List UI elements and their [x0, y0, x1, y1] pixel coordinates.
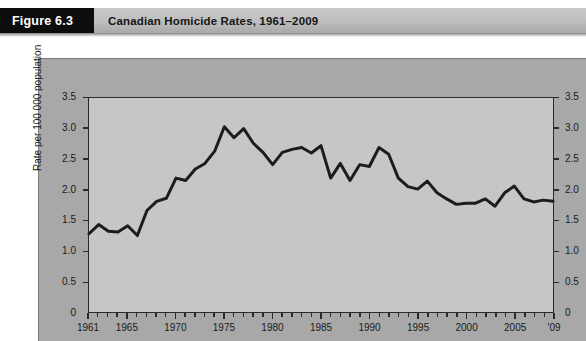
x-axis-tick-major: [87, 313, 89, 319]
x-axis-tick-minor: [524, 313, 526, 317]
y-axis-tick-left: [83, 189, 88, 191]
x-axis-tick-minor: [534, 313, 536, 317]
x-axis-tick-major: [466, 313, 468, 319]
y-axis-tick-label-left: 3.0: [39, 123, 76, 133]
x-axis-tick-minor: [476, 313, 478, 317]
x-axis-tick-minor: [301, 313, 303, 317]
y-axis-tick-label-left: 2.0: [39, 185, 76, 195]
x-axis-tick-label: 1975: [213, 323, 235, 333]
x-axis-tick-minor: [359, 313, 361, 317]
y-axis-tick-label-right: 2.0: [565, 185, 579, 195]
x-axis-tick-minor: [136, 313, 138, 317]
x-axis-tick-major: [272, 313, 274, 319]
x-axis-tick-minor: [398, 313, 400, 317]
x-axis-tick-label: 1985: [310, 323, 332, 333]
y-axis-tick-label-right: 0.5: [565, 277, 579, 287]
y-axis-tick-label-right: 0: [565, 308, 571, 318]
x-axis-tick-label: 2005: [504, 323, 526, 333]
x-axis-tick-major: [320, 313, 322, 319]
x-axis-tick-minor: [340, 313, 342, 317]
x-axis-tick-minor: [194, 313, 196, 317]
x-axis-tick-minor: [456, 313, 458, 317]
x-axis-tick-minor: [213, 313, 215, 317]
x-axis-tick-major: [514, 313, 516, 319]
x-axis-tick-minor: [349, 313, 351, 317]
x-axis-tick-minor: [281, 313, 283, 317]
x-axis-tick-major: [369, 313, 371, 319]
x-axis-tick-minor: [427, 313, 429, 317]
y-axis-tick-label-right: 1.5: [565, 215, 579, 225]
x-axis-tick-label: 1961: [77, 323, 99, 333]
figure-header: Figure 6.3 Canadian Homicide Rates, 1961…: [0, 8, 586, 33]
x-axis-tick-minor: [165, 313, 167, 317]
x-axis-tick-minor: [184, 313, 186, 317]
x-axis-tick-label: 1990: [358, 323, 380, 333]
x-axis-tick-minor: [544, 313, 546, 317]
y-axis-tick-right: [554, 282, 559, 284]
x-axis-tick-major: [126, 313, 128, 319]
x-axis-tick-minor: [379, 313, 381, 317]
x-axis-tick-minor: [388, 313, 390, 317]
x-axis-tick-minor: [107, 313, 109, 317]
y-axis-tick-label-right: 2.5: [565, 154, 579, 164]
x-axis-tick-minor: [243, 313, 245, 317]
y-axis-tick-label-right: 3.5: [565, 92, 579, 102]
x-axis-tick-minor: [233, 313, 235, 317]
figure-number-badge: Figure 6.3: [0, 8, 94, 33]
y-axis-tick-right: [554, 127, 559, 129]
y-axis-tick-label-left: 1.0: [39, 246, 76, 256]
x-axis-tick-minor: [330, 313, 332, 317]
y-axis-tick-right: [554, 158, 559, 160]
y-axis-tick-left: [83, 220, 88, 222]
x-axis-tick-minor: [262, 313, 264, 317]
y-axis-tick-right: [554, 251, 559, 253]
y-axis-tick-right: [554, 189, 559, 191]
x-axis-tick-major: [223, 313, 225, 319]
header-shadow-divider: [0, 33, 586, 37]
x-axis-tick-major: [175, 313, 177, 319]
y-axis-tick-left: [83, 127, 88, 129]
x-axis-tick-label: '09: [547, 323, 560, 333]
x-axis-tick-minor: [291, 313, 293, 317]
x-axis-tick-minor: [485, 313, 487, 317]
x-axis-tick-label: 1995: [407, 323, 429, 333]
y-axis-tick-left: [83, 251, 88, 253]
y-axis-tick-label-right: 1.0: [565, 246, 579, 256]
line-chart-svg: [89, 98, 553, 312]
x-axis-tick-minor: [155, 313, 157, 317]
y-axis-tick-left: [83, 97, 88, 99]
x-axis-tick-label: 2000: [456, 323, 478, 333]
x-axis-tick-minor: [204, 313, 206, 317]
x-axis-tick-major: [417, 313, 419, 319]
x-axis-tick-minor: [311, 313, 313, 317]
y-axis-tick-label-left: 0.5: [39, 277, 76, 287]
x-axis-tick-label: 1970: [164, 323, 186, 333]
y-axis-tick-right: [554, 97, 559, 99]
x-axis-tick-minor: [116, 313, 118, 317]
x-axis-tick-minor: [146, 313, 148, 317]
plot-area: [88, 97, 554, 313]
x-axis-tick-minor: [437, 313, 439, 317]
y-axis-tick-left: [83, 158, 88, 160]
x-axis-tick-minor: [252, 313, 254, 317]
y-axis-tick-label-left: 1.5: [39, 215, 76, 225]
x-axis-tick-label: 1965: [116, 323, 138, 333]
y-axis-tick-label-right: 3.0: [565, 123, 579, 133]
x-axis-tick-major: [553, 313, 555, 319]
y-axis-title: Rate per 100 000 population: [33, 45, 43, 171]
x-axis-tick-minor: [446, 313, 448, 317]
y-axis-tick-label-left: 0: [39, 308, 76, 318]
y-axis-tick-label-left: 2.5: [39, 154, 76, 164]
x-axis-tick-label: 1980: [261, 323, 283, 333]
homicide-rate-line: [89, 127, 553, 236]
x-axis-tick-minor: [408, 313, 410, 317]
x-axis-tick-minor: [97, 313, 99, 317]
y-axis-tick-left: [83, 282, 88, 284]
figure-title: Canadian Homicide Rates, 1961–2009: [94, 15, 318, 27]
x-axis-tick-minor: [505, 313, 507, 317]
x-axis-tick-minor: [495, 313, 497, 317]
chart-panel: Rate per 100 000 population 000.50.51.01…: [38, 58, 586, 341]
y-axis-tick-label-left: 3.5: [39, 92, 76, 102]
y-axis-tick-right: [554, 220, 559, 222]
